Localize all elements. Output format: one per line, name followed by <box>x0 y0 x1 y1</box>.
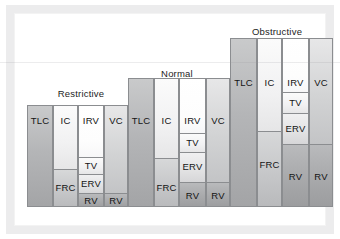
segment-erv: ERV <box>180 152 205 182</box>
segment-label: RV <box>314 172 327 182</box>
bar-restrictive-col-tlc: TLC <box>27 105 53 207</box>
segment-frc: FRC <box>155 158 178 207</box>
group-title-normal: Normal <box>152 68 202 79</box>
group-title-restrictive: Restrictive <box>50 88 112 99</box>
segment-label: TLC <box>234 78 253 88</box>
segment-label: TV <box>186 138 199 148</box>
segment-label: IC <box>265 78 275 88</box>
bar-normal-col-irv-tv-erv-rv: IRVTVERVRV <box>179 78 206 207</box>
segment-rv: RV <box>283 144 308 207</box>
segment-label: RV <box>84 196 97 206</box>
bar-normal-col-vc-rv: VCRV <box>206 78 230 207</box>
segment-label: FRC <box>55 183 75 193</box>
segment-frc: FRC <box>258 131 281 207</box>
segment-rv: RV <box>105 193 127 207</box>
bar-normal-col-ic-frc: ICFRC <box>154 78 179 207</box>
segment-tv: TV <box>180 133 205 152</box>
segment-label: RV <box>211 191 224 201</box>
segment-label: RV <box>109 196 122 206</box>
segment-vc: VC <box>310 39 332 144</box>
segment-tv: TV <box>79 157 103 174</box>
segment-tlc: TLC <box>129 79 153 207</box>
segment-tlc: TLC <box>28 106 52 207</box>
segment-label: IC <box>162 116 172 126</box>
segment-label: RV <box>186 191 199 201</box>
segment-label: ERV <box>286 124 306 134</box>
segment-label: FRC <box>156 183 176 193</box>
chart-plot-area: RestrictiveTLCICFRCIRVTVERVRVVCRVNormalT… <box>0 0 340 239</box>
bar-obstructive-col-irv-tv-erv-rv: IRVTVERVRV <box>282 38 309 207</box>
segment-label: TLC <box>132 116 151 126</box>
segment-erv: ERV <box>283 113 308 144</box>
segment-label: IRV <box>184 116 200 126</box>
segment-label: TV <box>85 161 98 171</box>
segment-label: IRV <box>83 116 99 126</box>
bar-restrictive-col-ic-frc: ICFRC <box>53 105 78 207</box>
bar-obstructive-col-ic-frc: ICFRC <box>257 38 282 207</box>
segment-label: IC <box>61 116 71 126</box>
bar-normal-col-tlc: TLC <box>128 78 154 207</box>
segment-irv: IRV <box>283 39 308 92</box>
segment-rv: RV <box>79 193 103 207</box>
group-title-obstructive: Obstructive <box>244 26 310 37</box>
segment-irv: IRV <box>180 79 205 133</box>
bar-restrictive-col-vc-rv: VCRV <box>104 105 128 207</box>
segment-label: ERV <box>183 162 203 172</box>
segment-rv: RV <box>310 144 332 207</box>
segment-label: ERV <box>81 179 101 189</box>
segment-irv: IRV <box>79 106 103 157</box>
bar-obstructive-col-tlc: TLC <box>230 38 257 207</box>
segment-tlc: TLC <box>231 39 256 207</box>
segment-ic: IC <box>155 79 178 158</box>
segment-frc: FRC <box>54 169 77 207</box>
segment-rv: RV <box>180 182 205 207</box>
segment-label: RV <box>289 172 302 182</box>
segment-tv: TV <box>283 92 308 113</box>
segment-label: VC <box>314 78 328 88</box>
segment-rv: RV <box>207 182 229 207</box>
segment-label: VC <box>109 116 123 126</box>
bar-obstructive-col-vc-rv: VCRV <box>309 38 333 207</box>
segment-ic: IC <box>258 39 281 131</box>
segment-erv: ERV <box>79 174 103 193</box>
lung-volume-figure: RestrictiveTLCICFRCIRVTVERVRVVCRVNormalT… <box>0 0 340 239</box>
segment-vc: VC <box>105 106 127 193</box>
segment-label: IRV <box>287 78 303 88</box>
bar-restrictive-col-irv-tv-erv-rv: IRVTVERVRV <box>78 105 104 207</box>
segment-vc: VC <box>207 79 229 182</box>
segment-label: TV <box>289 98 302 108</box>
segment-label: VC <box>211 116 225 126</box>
segment-label: FRC <box>259 160 279 170</box>
segment-label: TLC <box>31 116 50 126</box>
segment-ic: IC <box>54 106 77 169</box>
